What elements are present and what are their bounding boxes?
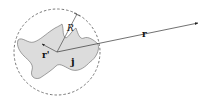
label-rprime: r' — [42, 50, 50, 60]
label-r: r — [142, 29, 147, 39]
multipole-diagram: r r' R j — [0, 0, 210, 99]
radius-tick — [74, 13, 80, 16]
label-R: R — [66, 23, 74, 33]
current-distribution-region — [17, 24, 98, 79]
label-j: j — [70, 56, 75, 67]
